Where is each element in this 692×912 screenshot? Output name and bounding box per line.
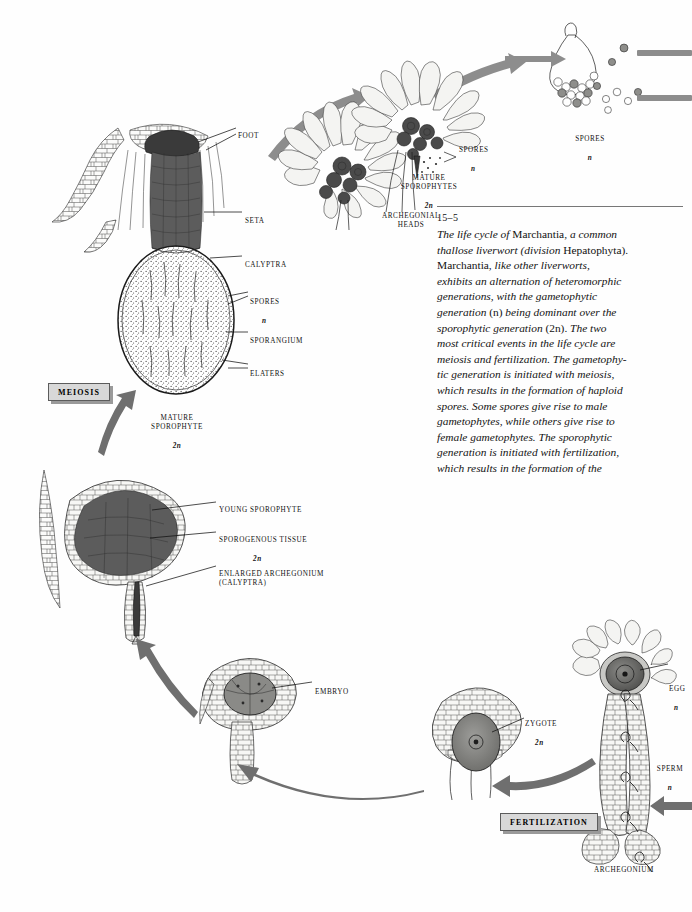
label-enlarged-archegonium: ENLARGED ARCHEGONIUM (CALYPTRA) <box>219 560 359 589</box>
young-sporophyte-drawing <box>39 470 185 644</box>
label-elaters: ELATERS <box>250 360 285 379</box>
figure-caption: 15–5 The life cycle of Marchantia, a com… <box>437 206 683 477</box>
archegonium-drawing <box>572 620 676 872</box>
arrow-embryo-to-young-sporophyte <box>136 639 198 718</box>
label-seta: SETA <box>245 207 265 226</box>
caption-rule <box>437 206 683 207</box>
arrow-spores-exit-lower <box>637 95 692 101</box>
meiosis-event-box: MEIOSIS <box>48 383 110 401</box>
label-spores-sporangium: SPORES n <box>250 288 306 326</box>
label-young-sporophyte: YOUNG SPOROPHYTE <box>219 496 302 515</box>
arrow-gametophyte-to-archegonium <box>650 796 692 816</box>
label-calyptra: CALYPTRA <box>245 251 287 270</box>
label-mature-sporophyte: MATURE SPOROPHYTE 2n <box>140 404 214 452</box>
label-zygote: ZYGOTE 2n <box>525 710 581 748</box>
label-sperm: SPERM n <box>650 755 690 793</box>
label-spores-top-right: SPORES n <box>560 125 620 163</box>
label-sporogenous-tissue: SPOROGENOUS TISSUE 2n <box>219 526 349 564</box>
sporangium-releasing-spores-drawing <box>550 23 642 113</box>
caption-body: The life cycle of Marchantia, a commonth… <box>437 227 683 477</box>
label-spores-released: SPORES n <box>459 136 519 174</box>
label-embryo: EMBRYO <box>315 678 349 697</box>
figure-page: SPORES n SPORES n MATURE SPOROPHYTES 2n … <box>0 0 692 912</box>
fertilization-event-box: FERTILIZATION <box>500 813 598 831</box>
arrow-fertilization-main <box>237 764 424 800</box>
label-sporangium: SPORANGIUM <box>250 327 303 346</box>
label-egg: EGG n <box>669 675 692 713</box>
mature-sporophyte-drawing <box>52 124 234 394</box>
arrow-spores-exit-upper <box>637 50 692 56</box>
label-archegonium: ARCHEGONIUM <box>580 856 668 875</box>
figure-number: 15–5 <box>437 212 683 223</box>
embryo-drawing <box>200 658 312 784</box>
label-foot: FOOT <box>238 122 259 141</box>
arrow-archegonium-to-zygote <box>492 758 596 797</box>
